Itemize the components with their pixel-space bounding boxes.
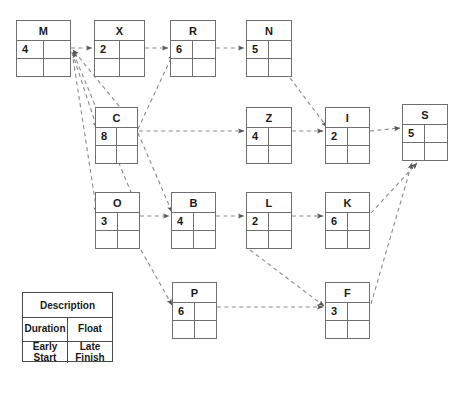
node-float	[348, 128, 370, 146]
node-duration: 3	[96, 213, 118, 231]
node-duration: 8	[96, 128, 117, 146]
node-duration: 6	[173, 303, 195, 321]
node-early-start	[247, 146, 269, 164]
legend-cell-duration: Duration	[23, 318, 68, 341]
node-early-start	[326, 321, 348, 339]
node-late-finish	[348, 231, 370, 249]
edge-f-to-s	[371, 163, 412, 304]
edge-i-to-s	[370, 128, 400, 131]
node-duration: 4	[17, 41, 44, 59]
node-p[interactable]: P6	[172, 282, 217, 339]
node-label: M	[17, 21, 70, 41]
node-label: I	[326, 108, 369, 128]
node-early-start	[403, 143, 425, 161]
node-late-finish	[118, 231, 140, 249]
node-value-grid: 2	[247, 213, 291, 248]
node-early-start	[96, 146, 117, 164]
node-label: S	[403, 105, 447, 125]
node-float	[269, 41, 291, 59]
node-label: L	[247, 193, 291, 213]
node-early-start	[326, 146, 348, 164]
node-x[interactable]: X2	[94, 20, 145, 77]
legend-cell-late-finish: Late Finish	[68, 342, 112, 363]
node-value-grid: 5	[403, 125, 447, 160]
node-late-finish	[195, 321, 217, 339]
node-float	[118, 213, 140, 231]
node-label: B	[172, 193, 215, 213]
legend-title: Description	[23, 293, 112, 318]
node-value-grid: 8	[96, 128, 137, 163]
node-duration: 2	[326, 128, 348, 146]
node-early-start	[326, 231, 348, 249]
legend-box: Description Duration Float Early Start L…	[22, 292, 113, 362]
node-value-grid: 6	[326, 213, 369, 248]
legend-late-line2: Finish	[75, 353, 104, 364]
node-late-finish	[117, 146, 138, 164]
node-value-grid: 4	[247, 128, 291, 163]
node-value-grid: 2	[326, 128, 369, 163]
node-late-finish	[269, 59, 291, 77]
node-n[interactable]: N5	[246, 20, 292, 77]
node-early-start	[96, 231, 118, 249]
node-float	[193, 41, 215, 59]
node-late-finish	[269, 231, 291, 249]
node-float	[269, 128, 291, 146]
node-value-grid: 4	[17, 41, 70, 76]
node-early-start	[247, 59, 269, 77]
node-b[interactable]: B4	[171, 192, 216, 249]
legend-early-line1: Early	[33, 342, 57, 353]
node-early-start	[17, 59, 44, 77]
node-s[interactable]: S5	[402, 104, 448, 161]
node-c[interactable]: C8	[95, 107, 138, 164]
node-float	[348, 303, 370, 321]
edges-group	[71, 48, 417, 307]
node-float	[425, 125, 447, 143]
node-l[interactable]: L2	[246, 192, 292, 249]
node-late-finish	[44, 59, 71, 77]
node-float	[269, 213, 291, 231]
node-z[interactable]: Z4	[246, 107, 292, 164]
node-label: P	[173, 283, 216, 303]
node-m[interactable]: M4	[16, 20, 71, 77]
network-diagram-canvas: M4X2R6N5C8Z4I2S5O3B4L2K6P6F3 Description…	[0, 0, 459, 399]
node-duration: 4	[172, 213, 194, 231]
node-float	[194, 213, 216, 231]
node-duration: 3	[326, 303, 348, 321]
node-late-finish	[348, 146, 370, 164]
node-value-grid: 5	[247, 41, 291, 76]
edge-l-to-f	[250, 250, 324, 306]
legend-row-duration-float: Duration Float	[23, 318, 112, 342]
node-early-start	[95, 59, 120, 77]
node-late-finish	[193, 59, 215, 77]
node-late-finish	[120, 59, 145, 77]
edge-n-to-i	[290, 78, 327, 127]
node-float	[348, 213, 370, 231]
node-late-finish	[425, 143, 447, 161]
node-late-finish	[194, 231, 216, 249]
legend-cell-early-start: Early Start	[23, 342, 68, 363]
node-value-grid: 3	[96, 213, 139, 248]
node-f[interactable]: F3	[325, 282, 370, 339]
legend-cell-float: Float	[68, 318, 112, 341]
node-duration: 5	[247, 41, 269, 59]
edge-o-to-p	[141, 250, 172, 305]
node-duration: 2	[95, 41, 120, 59]
node-float	[195, 303, 217, 321]
node-k[interactable]: K6	[325, 192, 370, 249]
node-r[interactable]: R6	[170, 20, 216, 77]
node-float	[120, 41, 145, 59]
edge-k-to-s	[371, 163, 417, 213]
node-early-start	[172, 231, 194, 249]
node-label: K	[326, 193, 369, 213]
node-label: N	[247, 21, 291, 41]
node-value-grid: 6	[171, 41, 215, 76]
edge-c-to-b	[138, 133, 172, 212]
node-late-finish	[269, 146, 291, 164]
node-duration: 6	[171, 41, 193, 59]
node-float	[44, 41, 71, 59]
node-float	[117, 128, 138, 146]
node-i[interactable]: I2	[325, 107, 370, 164]
node-label: F	[326, 283, 369, 303]
node-o[interactable]: O3	[95, 192, 140, 249]
node-late-finish	[348, 321, 370, 339]
